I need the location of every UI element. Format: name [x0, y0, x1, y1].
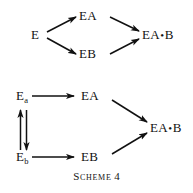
node-eb-enzyme-subscript: b [24, 156, 28, 166]
caption-label: Scheme [73, 170, 111, 182]
node-ea-enzyme-base: E [16, 88, 24, 103]
bullet-dot-icon: • [168, 122, 173, 134]
caption-number: 4 [114, 170, 120, 182]
node-ea-enzyme: Ea [16, 89, 28, 102]
node-ea-b-complex: EA•B [142, 28, 174, 43]
node-ea-b-suffix: B [165, 27, 174, 42]
arrow-ea-to-product [110, 17, 139, 31]
arrow-eb-to-product [110, 39, 139, 54]
node-bottom-ea: EA [81, 89, 99, 102]
node-bottom-eb: EB [81, 150, 98, 163]
arrow-e-to-eb [47, 38, 76, 54]
arrow-bottom-ea-to-product [112, 100, 147, 122]
arrow-e-to-ea [47, 17, 76, 32]
node-eb: EB [79, 47, 96, 60]
node-ea-enzyme-subscript: a [24, 95, 28, 105]
node-eb-enzyme: Eb [16, 150, 28, 163]
node-bottom-ea-b-prefix: EA [150, 120, 168, 135]
node-bottom-ea-b-complex: EA•B [150, 121, 182, 136]
arrow-bottom-eb-to-product [112, 133, 147, 154]
node-eb-enzyme-base: E [16, 149, 24, 164]
scheme-figure: E EA EB EA•B Ea Eb EA EB EA•B [0, 0, 193, 193]
node-bottom-ea-b-suffix: B [173, 120, 182, 135]
bullet-dot-icon: • [160, 29, 165, 41]
node-e: E [31, 28, 39, 41]
figure-caption: Scheme 4 [0, 170, 193, 182]
node-ea-b-prefix: EA [142, 27, 160, 42]
node-ea: EA [79, 9, 97, 22]
